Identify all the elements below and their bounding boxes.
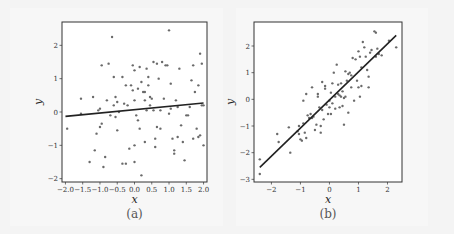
data-point [369,51,371,53]
data-point [259,158,261,160]
data-point [170,107,172,109]
data-point [314,129,316,131]
data-point [144,141,146,143]
y-axis-ticks: −3−2−1012 [240,43,254,184]
data-point [298,133,300,135]
data-point [176,136,178,138]
data-point [288,126,290,128]
data-point [341,90,343,92]
data-point [309,113,311,115]
data-point [343,123,345,125]
y-tick-label: 2 [54,42,58,50]
x-tick-label: 2 [385,186,389,194]
data-point [109,114,111,116]
y-tick-label: 1 [54,75,58,83]
data-point [138,66,140,68]
data-point [99,107,101,109]
data-point [166,64,168,66]
data-point [114,116,116,118]
data-point [344,70,346,72]
data-point [197,84,199,86]
data-point [149,104,151,106]
data-point [194,91,196,93]
data-point [121,162,123,164]
x-axis-label: x [131,193,138,206]
x-tick-label: −2 [266,186,276,194]
data-point [338,106,340,108]
x-tick-label: −1.0 [91,186,108,194]
data-point [360,85,362,87]
data-point [324,87,326,89]
data-point [133,161,135,163]
y-tick-label: −1 [240,123,250,131]
data-point [330,91,332,93]
x-tick-label: 1 [356,186,360,194]
data-point [180,124,182,126]
data-point [107,62,109,64]
data-point [341,105,343,107]
data-point [350,86,352,88]
data-point [331,82,333,84]
data-point [357,50,359,52]
data-point [276,133,278,135]
data-point [144,91,146,93]
data-point [333,71,335,73]
data-point [88,161,90,163]
data-point [350,74,352,76]
data-point [298,125,300,127]
data-point [202,104,204,106]
data-point [380,54,382,56]
data-point [97,109,99,111]
data-point [95,132,97,134]
data-point [156,126,158,128]
data-point [154,146,156,148]
data-point [192,64,194,66]
data-point [340,82,342,84]
x-axis-label: x [325,193,332,206]
data-point [302,99,304,101]
data-point [133,144,135,146]
data-point [178,67,180,69]
data-point [173,149,175,151]
data-point [367,75,369,77]
x-tick-label: 1.0 [163,186,174,194]
data-point [182,141,184,143]
data-point [157,77,159,79]
data-point [113,76,115,78]
data-point [336,63,338,65]
data-point [104,156,106,158]
data-point [201,62,203,64]
data-point [111,36,113,38]
data-point [189,106,191,108]
data-point [154,137,156,139]
data-point [354,58,356,60]
data-point [144,99,146,101]
data-point [327,113,329,115]
data-point [121,76,123,78]
data-point [301,139,303,141]
data-point [168,112,170,114]
data-point [125,162,127,164]
x-tick-label: 2.0 [198,186,209,194]
data-point [334,107,336,109]
data-point [357,86,359,88]
subfigure-caption: (b) [319,207,336,221]
data-point [140,174,142,176]
data-point [197,136,199,138]
data-point [366,69,368,71]
data-point [128,147,130,149]
data-point [363,46,365,48]
data-point [317,93,319,95]
data-point [367,86,369,88]
data-point [151,97,153,99]
data-point [168,29,170,31]
data-point [317,95,319,97]
data-point [315,123,317,125]
data-point [125,84,127,86]
data-point [147,84,149,86]
data-point [304,131,306,133]
data-point [101,64,103,66]
y-tick-label: 2 [246,43,250,51]
data-point [337,83,339,85]
data-point [190,79,192,81]
